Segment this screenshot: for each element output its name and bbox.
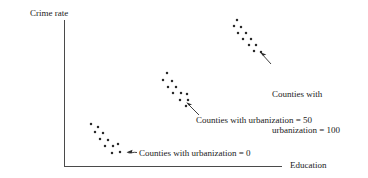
data-point — [94, 131, 97, 134]
leader-urbanization-50 — [186, 102, 199, 115]
data-point — [180, 92, 183, 95]
x-axis-title: Education — [290, 160, 327, 171]
data-point — [186, 93, 189, 96]
data-point — [112, 145, 115, 148]
data-point — [245, 32, 248, 35]
annotation-urbanization-100-line2: urbanization = 100 — [272, 124, 340, 136]
cluster-urbanization-50 — [162, 72, 190, 108]
annotation-urbanization-100-line1: Counties with — [272, 88, 340, 100]
data-point — [119, 151, 122, 154]
cluster-urbanization-100 — [233, 19, 263, 54]
data-point — [99, 138, 102, 141]
data-point — [187, 99, 190, 102]
data-point — [107, 139, 110, 142]
data-point — [185, 105, 188, 108]
data-point — [255, 44, 258, 47]
data-point — [237, 32, 240, 35]
data-point — [236, 19, 239, 22]
leader-urbanization-0 — [127, 150, 138, 153]
data-point — [162, 79, 165, 82]
cluster-urbanization-0 — [90, 123, 122, 155]
data-point — [97, 126, 100, 129]
data-point — [242, 38, 245, 41]
leader-urbanization-100 — [260, 52, 271, 64]
data-point — [175, 86, 178, 89]
data-point — [253, 50, 256, 53]
data-point — [172, 92, 175, 95]
annotation-urbanization-0: Counties with urbanization = 0 — [139, 148, 251, 159]
data-point — [111, 152, 114, 155]
data-point — [250, 38, 253, 41]
data-point — [248, 44, 251, 47]
annotation-urbanization-100: Counties with urbanization = 100 — [272, 64, 340, 160]
data-point — [240, 26, 243, 29]
data-point — [90, 123, 93, 126]
data-point — [233, 25, 236, 28]
data-point — [102, 132, 105, 135]
data-point — [171, 80, 174, 83]
y-axis-title: Crime rate — [30, 8, 68, 19]
data-point — [104, 145, 107, 148]
data-point — [179, 99, 182, 102]
data-point — [167, 86, 170, 89]
data-point — [166, 72, 169, 75]
data-point — [117, 143, 120, 146]
scatterplot-figure: Crime rate Education Counties with urban… — [0, 0, 368, 178]
